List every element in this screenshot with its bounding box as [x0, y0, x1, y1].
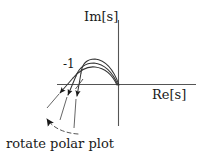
locus-branch-1-arrow [60, 78, 73, 93]
dashed-rotation-arc-icon [47, 119, 78, 134]
minus-one-tick-label: -1 [63, 58, 75, 70]
locus-branch-2-tail [60, 97, 67, 120]
locus-branch-3 [81, 59, 119, 85]
root-locus-figure: Im[s] Re[s] -1 rotate polar plot [0, 0, 203, 162]
locus-branch-3-tail [74, 99, 76, 128]
locus-branch-1-tail [47, 94, 59, 108]
imaginary-axis-label: Im[s] [84, 10, 118, 23]
real-axis-label: Re[s] [152, 88, 186, 101]
rotate-polar-plot-caption: rotate polar plot [6, 137, 114, 150]
